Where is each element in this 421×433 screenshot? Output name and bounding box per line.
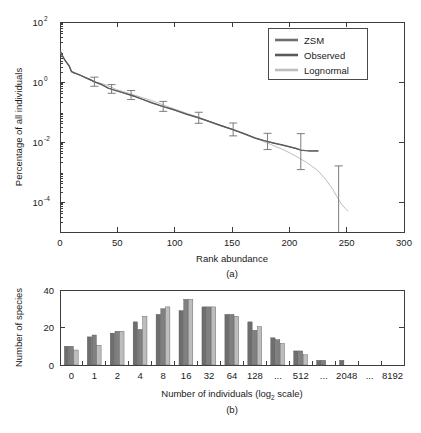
bar-lognormal	[120, 331, 124, 365]
bar-zsm	[317, 360, 321, 365]
species-abundance-histogram: 0204001248163264128...512...2048...8192N…	[0, 280, 421, 433]
y-tick-label-exp: 2	[44, 15, 48, 22]
x-tick-label: 1	[92, 370, 97, 381]
bar-group	[294, 351, 308, 365]
bar-lognormal	[234, 316, 238, 365]
bar-group	[156, 307, 170, 365]
y-tick-label-exp: -4	[44, 195, 50, 202]
bar-observed	[298, 351, 302, 365]
y-tick-label: 40	[43, 285, 54, 296]
x-tick-label: 50	[112, 237, 123, 248]
x-tick-label: 4	[138, 370, 143, 381]
y-tick-label: 20	[43, 322, 54, 333]
x-axis-title: Number of individuals (log2 scale)	[161, 388, 302, 401]
panel-a-caption: (a)	[226, 268, 238, 279]
bar-zsm	[179, 311, 183, 365]
bar-zsm	[64, 346, 68, 365]
bar-zsm	[87, 337, 91, 365]
bar-observed	[69, 346, 73, 365]
bar-group	[340, 360, 344, 365]
bar-lognormal	[74, 350, 78, 365]
x-tick-label: 200	[281, 237, 297, 248]
y-tick-label-base: 10	[32, 197, 43, 208]
x-tick-label: 32	[204, 370, 215, 381]
y-tick-label-base: 10	[32, 137, 43, 148]
y-tick-label-exp: 0	[44, 75, 48, 82]
legend-label-observed: Observed	[304, 50, 345, 61]
y-tick-label: 100	[32, 75, 48, 88]
x-tick-label: 8	[161, 370, 166, 381]
bar-zsm	[271, 338, 275, 365]
bar-observed	[230, 314, 234, 365]
bar-group	[110, 331, 124, 365]
bar-lognormal	[303, 355, 307, 365]
bar-group	[133, 316, 147, 365]
figure-container: 10210010-210-4050100150200250300Rank abu…	[0, 0, 421, 433]
x-tick-label: 16	[181, 370, 192, 381]
bar-lognormal	[211, 307, 215, 365]
panel-b-caption: (b)	[226, 404, 238, 415]
bar-observed	[207, 307, 211, 365]
y-axis-title: Percentage of all individuals	[13, 68, 24, 187]
bar-observed	[115, 331, 119, 365]
bar-zsm	[156, 314, 160, 365]
bar-observed	[253, 330, 257, 365]
bar-group	[87, 335, 101, 365]
bar-lognormal	[257, 327, 261, 365]
error-bar	[195, 112, 203, 123]
x-tick-label: 0	[69, 370, 74, 381]
x-tick-label: 0	[57, 237, 62, 248]
bar-group	[225, 314, 239, 365]
bar-lognormal	[189, 299, 193, 365]
bar-observed	[321, 360, 325, 365]
error-bar	[335, 166, 343, 240]
x-tick-label: 512	[293, 370, 309, 381]
bar-observed	[184, 299, 188, 365]
bar-lognormal	[166, 307, 170, 365]
bar-group	[317, 360, 326, 365]
x-tick-label: 150	[224, 237, 240, 248]
x-tick-label: 100	[167, 237, 183, 248]
bar-zsm	[225, 314, 229, 365]
bar-observed	[92, 335, 96, 365]
x-tick-label: 300	[396, 237, 412, 248]
bar-group	[179, 299, 193, 365]
panel-b-species-histogram: 0204001248163264128...512...2048...8192N…	[0, 280, 421, 433]
bar-observed	[161, 309, 165, 365]
legend: ZSMObservedLognormal	[268, 28, 367, 79]
y-tick-label-exp: -2	[44, 135, 50, 142]
y-tick-label-base: 10	[32, 17, 43, 28]
panel-a-rank-abundance: 10210010-210-4050100150200250300Rank abu…	[0, 0, 421, 280]
bar-zsm	[133, 322, 137, 365]
x-tick-label: ...	[320, 370, 328, 381]
bar-zsm	[340, 360, 344, 365]
x-tick-label: 2048	[336, 370, 357, 381]
bar-group	[248, 322, 262, 365]
x-tick-label: 64	[227, 370, 238, 381]
y-tick-label: 10-4	[32, 195, 50, 208]
y-tick-label: 0	[49, 360, 54, 371]
bar-group	[64, 346, 78, 365]
x-tick-label: 128	[247, 370, 263, 381]
x-axis-title: Rank abundance	[196, 253, 268, 264]
y-axis-title: Number of species	[13, 288, 24, 367]
bar-lognormal	[143, 316, 147, 365]
bar-zsm	[294, 351, 298, 365]
bar-observed	[276, 340, 280, 365]
x-tick-label: ...	[274, 370, 282, 381]
bar-observed	[138, 329, 142, 365]
x-tick-label: 2	[115, 370, 120, 381]
bar-group	[202, 307, 216, 365]
bar-lognormal	[97, 345, 101, 365]
y-tick-label: 102	[32, 15, 48, 28]
legend-label-zsm: ZSM	[304, 35, 324, 46]
bar-lognormal	[280, 343, 284, 365]
y-tick-label: 10-2	[32, 135, 50, 148]
x-tick-label: 8192	[382, 370, 403, 381]
rank-abundance-plot: 10210010-210-4050100150200250300Rank abu…	[0, 0, 421, 280]
x-tick-label: ...	[366, 370, 374, 381]
legend-label-lognormal: Lognormal	[304, 65, 349, 76]
y-tick-label-base: 10	[32, 77, 43, 88]
bar-zsm	[202, 307, 206, 365]
x-tick-label: 250	[339, 237, 355, 248]
